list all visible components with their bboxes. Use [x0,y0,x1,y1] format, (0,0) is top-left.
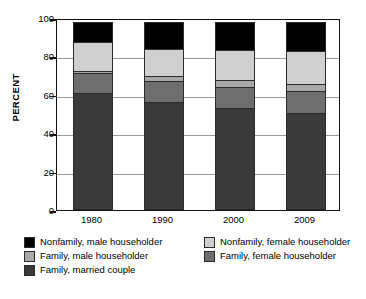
legend-label: Nonfamily, male householder [40,236,162,248]
chart-figure: PERCENT 020406080100 1980199020002009 No… [0,0,366,299]
legend-entry[interactable]: Nonfamily, male householder [24,236,204,248]
legend-row: Family, married couple [24,264,354,278]
legend-entry[interactable]: Family, male householder [24,250,204,262]
bar-segment[interactable] [286,91,326,114]
bar-segment[interactable] [73,73,113,94]
bar-segment[interactable] [286,22,326,52]
legend-swatch-icon [24,237,35,248]
x-tick-label: 2009 [275,214,335,225]
bar-segment[interactable] [144,22,184,50]
y-tick-label: 80 [20,52,54,62]
bar-segment[interactable] [215,22,255,51]
y-tick-label: 0 [20,206,54,216]
legend-swatch-icon [24,265,35,276]
legend-label: Family, married couple [40,264,135,276]
bar-segment[interactable] [215,87,255,110]
legend-label: Family, female householder [220,250,336,262]
legend-swatch-icon [204,237,215,248]
y-axis-title: PERCENT [10,73,21,121]
y-tick-label: 100 [20,14,54,24]
legend-swatch-icon [204,251,215,262]
legend-swatch-icon [24,251,35,262]
legend-row: Family, male householderFamily, female h… [24,250,354,264]
chart-legend: Nonfamily, male householderNonfamily, fe… [24,236,354,278]
plot-area [56,19,340,211]
bar-segment[interactable] [144,81,184,103]
legend-entry[interactable]: Nonfamily, female householder [204,236,354,248]
legend-label: Family, male householder [40,250,148,262]
legend-label: Nonfamily, female householder [220,236,350,248]
y-tick-label: 20 [20,168,54,178]
bar-stack-1990[interactable] [144,22,184,210]
bar-segment[interactable] [73,42,113,72]
bar-segment[interactable] [144,102,184,210]
bar-segment[interactable] [144,49,184,77]
x-tick-label: 1990 [133,214,193,225]
bar-segment[interactable] [73,93,113,210]
y-tick-label: 40 [20,129,54,139]
legend-entry[interactable]: Family, married couple [24,264,204,276]
x-tick-label: 2000 [204,214,264,225]
bar-stack-2000[interactable] [215,22,255,210]
y-tick-mark [50,211,56,213]
bar-stack-2009[interactable] [286,22,326,210]
bar-segment[interactable] [215,108,255,210]
bar-segment[interactable] [286,113,326,210]
y-tick-label: 60 [20,91,54,101]
bar-segment[interactable] [73,22,113,43]
bar-segment[interactable] [286,51,326,85]
legend-entry[interactable]: Family, female householder [204,250,354,262]
x-tick-label: 1980 [62,214,122,225]
bar-segment[interactable] [215,50,255,81]
legend-row: Nonfamily, male householderNonfamily, fe… [24,236,354,250]
bar-stack-1980[interactable] [73,22,113,210]
